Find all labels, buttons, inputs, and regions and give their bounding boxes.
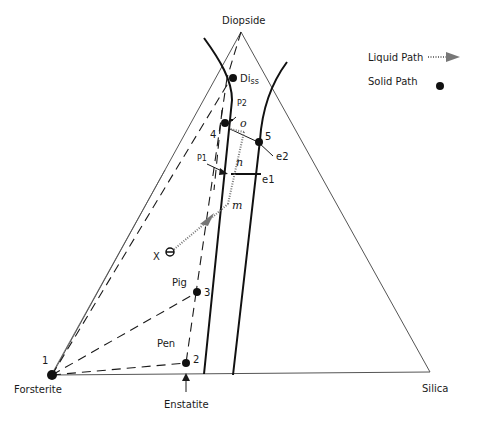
label-enstatite: Enstatite: [164, 399, 209, 410]
label-P1: P1: [197, 154, 207, 163]
label-pen: Pen: [157, 338, 175, 349]
label-x: X: [153, 251, 160, 262]
point-3: [193, 288, 201, 296]
label-m: m: [232, 199, 242, 212]
ternary-diagram: Diopside Forsterite Silica Enstatite 1 2…: [0, 0, 480, 423]
legend-solid-path-label: Solid Path: [368, 76, 418, 87]
point-x-marker: [166, 248, 174, 256]
label-n: n: [236, 156, 243, 169]
label-forsterite: Forsterite: [14, 384, 62, 395]
phase-boundaries: [204, 38, 287, 375]
label-point-2: 2: [193, 354, 199, 365]
liquid-path: [172, 129, 244, 251]
point-diss: [229, 74, 237, 82]
point-2: [182, 359, 190, 367]
forsterite-diopside-inner-line: [54, 170, 165, 370]
label-P2: P2: [237, 99, 247, 108]
label-diss: Diss: [240, 73, 259, 86]
legend-liquid-path-label: Liquid Path: [368, 52, 423, 63]
label-pig: Pig: [172, 277, 187, 288]
label-e2: e2: [276, 151, 289, 162]
label-o: o: [240, 117, 247, 130]
label-point-4: 4: [210, 129, 216, 140]
label-point-3: 3: [204, 287, 210, 298]
point-4: [221, 119, 229, 127]
point-forsterite: [47, 370, 57, 380]
legend: Liquid Path Solid Path: [368, 52, 460, 90]
label-diopside: Diopside: [222, 15, 265, 26]
label-e1: e1: [262, 174, 275, 185]
legend-liquid-arrow-icon: [446, 52, 460, 62]
point-5: [255, 138, 263, 146]
p1-arrow-head: [219, 168, 228, 175]
label-point-1: 1: [42, 355, 48, 366]
legend-solid-dot-icon: [436, 82, 444, 90]
label-silica: Silica: [422, 383, 448, 394]
label-point-5: 5: [265, 131, 271, 142]
